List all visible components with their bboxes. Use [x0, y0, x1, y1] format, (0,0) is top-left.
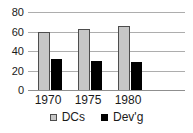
legend-swatch-icon — [50, 114, 57, 121]
gridline-40 — [28, 51, 185, 52]
legend-label: DCs — [62, 110, 85, 124]
x-tick-label-1975: 1975 — [71, 93, 105, 107]
y-tick-label-40: 40 — [0, 46, 24, 57]
legend-item-dcs: DCs — [50, 110, 85, 124]
bar-devg-1975 — [91, 61, 102, 90]
legend-label: Dev'g — [113, 110, 143, 124]
y-tick-label-60: 60 — [0, 27, 24, 38]
y-tick-label-80: 80 — [0, 7, 24, 18]
legend: DCsDev'g — [0, 110, 193, 124]
legend-swatch-icon — [101, 114, 108, 121]
y-tick-label-0: 0 — [0, 85, 24, 96]
bar-dcs-1980 — [118, 26, 130, 90]
plot-area — [28, 12, 185, 90]
gridline-0 — [28, 90, 185, 91]
bar-chart: 806040200 197019751980 DCsDev'g — [0, 0, 193, 133]
bar-dcs-1975 — [78, 29, 90, 90]
gridline-60 — [28, 32, 185, 33]
legend-item-devg: Dev'g — [101, 110, 143, 124]
x-tick-label-1980: 1980 — [111, 93, 145, 107]
bar-devg-1970 — [51, 59, 62, 90]
bar-devg-1980 — [131, 62, 142, 90]
x-tick-label-1970: 1970 — [31, 93, 65, 107]
y-tick-label-20: 20 — [0, 66, 24, 77]
bar-dcs-1970 — [38, 32, 50, 91]
gridline-80 — [28, 12, 185, 13]
